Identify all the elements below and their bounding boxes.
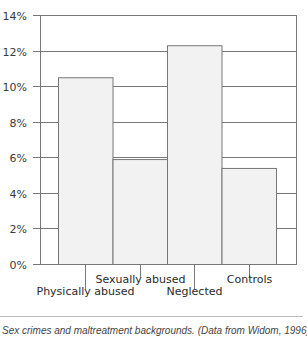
category-label: Neglected bbox=[167, 285, 223, 298]
bar bbox=[59, 78, 114, 265]
y-tick-label: 4% bbox=[10, 188, 27, 201]
y-tick-label: 0% bbox=[10, 259, 27, 272]
bar bbox=[168, 46, 223, 265]
y-tick-label: 6% bbox=[10, 152, 27, 165]
y-tick-label: 10% bbox=[3, 81, 27, 94]
figure-caption: Sex crimes and maltreatment backgrounds.… bbox=[2, 325, 307, 336]
category-label: Physically abused bbox=[37, 285, 135, 298]
bar bbox=[222, 168, 277, 264]
y-tick-label: 12% bbox=[3, 46, 27, 59]
y-tick-label: 8% bbox=[10, 117, 27, 130]
bar-chart: 0%2%4%6%8%10%12%14%Physically abusedSexu… bbox=[0, 0, 307, 310]
caption-divider bbox=[0, 316, 303, 317]
bar bbox=[113, 160, 168, 265]
y-tick-label: 14% bbox=[3, 10, 27, 23]
y-tick-label: 2% bbox=[10, 223, 27, 236]
category-label: Controls bbox=[227, 273, 273, 286]
